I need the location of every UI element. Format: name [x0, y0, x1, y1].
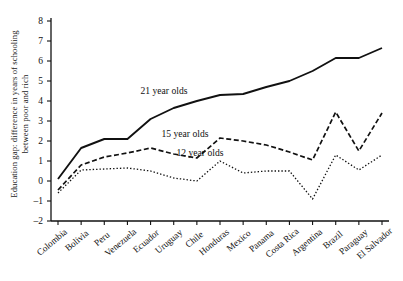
series-line-12-year-olds	[58, 155, 382, 199]
chart-figure: Education gap: difference in years of sc…	[0, 0, 403, 281]
y-axis-tick-label: 2	[29, 136, 43, 146]
y-axis-tick-label: 4	[29, 96, 43, 106]
series-label-21-year-olds: 21 year olds	[141, 85, 188, 96]
y-axis-tick-label: 0	[29, 176, 43, 186]
x-axis-tick-label-el-salvador: El Salvador	[385, 228, 391, 236]
y-axis-tick-label: –1	[29, 196, 43, 206]
y-axis-tick-label: 6	[29, 56, 43, 66]
y-axis-tick-label: 1	[29, 156, 43, 166]
series-label-12-year-olds: 12 year olds	[177, 147, 224, 158]
series-label-15-year-olds: 15 year olds	[162, 128, 209, 139]
axes	[47, 18, 389, 225]
y-axis-tick-label: 7	[29, 36, 43, 46]
y-axis-tick-label: 8	[29, 16, 43, 26]
y-axis-tick-label: –2	[29, 216, 43, 226]
y-axis-tick-label: 5	[29, 76, 43, 86]
data-series-group	[58, 48, 382, 199]
y-axis-tick-label: 3	[29, 116, 43, 126]
